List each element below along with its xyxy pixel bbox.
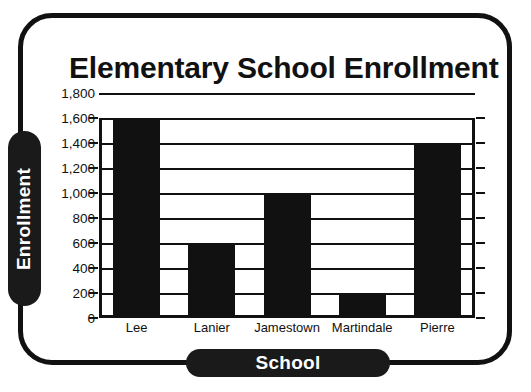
y-tick-mark — [476, 192, 485, 194]
x-tick-label: Jamestown — [254, 320, 320, 335]
y-axis-title-pill: Enrollment — [8, 131, 41, 306]
bar — [113, 118, 160, 318]
gridline — [99, 93, 475, 95]
y-tick-label: 600 — [43, 236, 95, 251]
y-tick-label: 200 — [43, 286, 95, 301]
x-tick-label: Martindale — [332, 320, 393, 335]
y-tick-mark — [476, 167, 485, 169]
x-tick-label: Pierre — [420, 320, 455, 335]
y-tick-mark — [476, 242, 485, 244]
y-tick-mark — [89, 192, 98, 194]
y-tick-mark — [476, 117, 485, 119]
y-tick-label: 0 — [43, 311, 95, 326]
y-tick-mark — [89, 142, 98, 144]
y-tick-label: 1,400 — [43, 136, 95, 151]
y-tick-label: 1,800 — [43, 86, 95, 101]
bar — [339, 293, 386, 318]
x-axis-tick-labels: LeeLanierJamestownMartindalePierre — [99, 320, 475, 340]
y-axis-title: Enrollment — [14, 167, 36, 269]
y-tick-mark — [89, 167, 98, 169]
y-tick-label: 1,000 — [43, 186, 95, 201]
plot-area — [99, 93, 475, 318]
y-tick-label: 800 — [43, 211, 95, 226]
y-tick-mark — [476, 217, 485, 219]
bar — [414, 143, 461, 318]
y-tick-label: 400 — [43, 261, 95, 276]
y-tick-label: 1,600 — [43, 111, 95, 126]
y-tick-mark — [89, 117, 98, 119]
y-tick-mark — [476, 142, 485, 144]
bar — [264, 193, 311, 318]
x-axis-title: School — [255, 352, 320, 374]
y-tick-mark — [89, 217, 98, 219]
x-tick-label: Lanier — [194, 320, 230, 335]
bar — [188, 243, 235, 318]
y-tick-mark — [476, 267, 485, 269]
x-tick-label: Lee — [126, 320, 148, 335]
y-tick-label: 1,200 — [43, 161, 95, 176]
y-tick-mark — [89, 317, 98, 319]
chart-title: Elementary School Enrollment — [69, 51, 531, 85]
x-axis-title-pill: School — [186, 349, 390, 377]
y-tick-mark — [476, 317, 485, 319]
y-tick-mark — [89, 292, 98, 294]
y-tick-mark — [89, 267, 98, 269]
y-tick-mark — [89, 242, 98, 244]
y-axis-tick-labels: 1,8001,6001,4001,2001,0008006004002000 — [39, 93, 95, 318]
y-tick-mark — [476, 292, 485, 294]
